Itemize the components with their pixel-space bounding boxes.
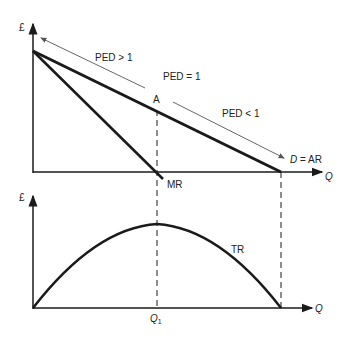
top-panel: £ Q PED > 1 PED = 1 PED < 1 A MR D = AR [19, 22, 333, 190]
demand-label: D = AR [290, 154, 322, 165]
q1-label: Q1 [150, 313, 162, 325]
revenue-elasticity-diagram: £ Q PED > 1 PED = 1 PED < 1 A MR D = AR … [0, 0, 338, 341]
bottom-x-axis-label: Q [315, 303, 323, 314]
ped-inelastic-label: PED < 1 [222, 108, 260, 119]
ped-unit-label: PED = 1 [163, 71, 201, 82]
ped-elastic-label: PED > 1 [95, 52, 133, 63]
tr-label: TR [231, 244, 244, 255]
top-y-axis-label: £ [19, 22, 25, 33]
mr-curve [33, 51, 163, 179]
point-a-label: A [153, 94, 160, 105]
bottom-y-axis-label: £ [19, 192, 25, 203]
bottom-panel: £ Q TR Q1 [19, 192, 323, 325]
top-x-axis-label: Q [325, 171, 333, 182]
mr-label: MR [167, 179, 183, 190]
